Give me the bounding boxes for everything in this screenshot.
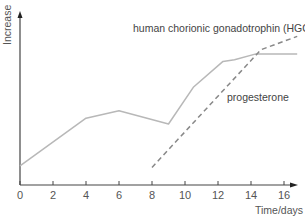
x-tick-label: 10 [179, 189, 191, 201]
y-axis-label: Increase [1, 5, 13, 45]
hcg-annotation: human chorionic gonadotrophin (HGC) [133, 22, 305, 34]
x-tick-label: 0 [17, 189, 23, 201]
x-tick-label: 2 [50, 189, 56, 201]
x-tick-label: 4 [83, 189, 89, 201]
x-axis-arrow-icon [290, 183, 298, 188]
y-axis-arrow-icon [18, 11, 23, 18]
x-tick-label: 16 [278, 189, 290, 201]
hormone-levels-chart: 0246810121416 Increase Time/days human c… [0, 0, 305, 221]
x-axis-label: Time/days [255, 204, 303, 216]
x-tick-label: 6 [116, 189, 122, 201]
progesterone-line [20, 54, 297, 166]
x-tick-label: 12 [212, 189, 224, 201]
x-tick-label: 8 [149, 189, 155, 201]
x-tick-label: 14 [245, 189, 257, 201]
progesterone-annotation: progesterone [227, 91, 289, 103]
x-ticks: 0246810121416 [17, 181, 290, 201]
